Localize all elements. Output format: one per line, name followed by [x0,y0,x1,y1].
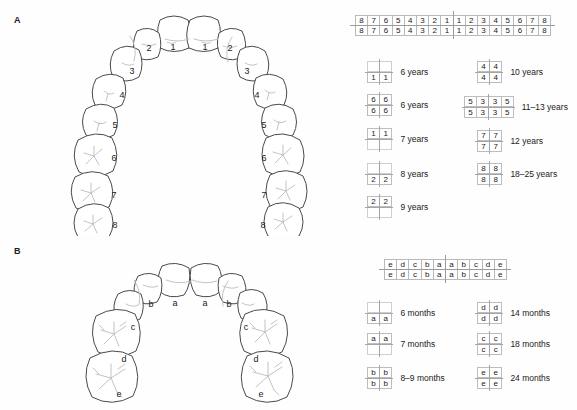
quadrant-cell [379,302,392,313]
quadrant-occlusal-line [475,313,503,314]
eruption-quadrant-grid: 53355335 [464,96,513,118]
quadrant-occlusal-line [475,344,503,345]
quadrant-cell: d [489,302,502,313]
arch-label-right-7: 7 [261,190,266,200]
quadrant-occlusal-line [475,174,503,175]
arch-label-left-d: d [121,354,126,364]
quadrant-cell: a [379,313,392,324]
arch-label-right-a: a [202,298,207,308]
eruption-quadrant-grid: 6666 [367,94,391,116]
quadrant-occlusal-line [365,378,393,379]
quadrant-occlusal-line [365,207,393,208]
quadrant-cell: 4 [489,72,502,83]
eruption-quadrant-grid: cccc [477,333,501,355]
quadrant-cell [379,139,392,150]
quadrant-cell: b [379,378,392,389]
eruption-age-label: 6 months [400,308,435,318]
quadrant-cell: 5 [501,107,514,118]
formula-occlusal-line [379,269,511,270]
arch-label-right-1: 1 [202,42,207,52]
quadrant-occlusal-line [475,141,503,142]
quadrant-occlusal-line [365,105,393,106]
eruption-quadrant-grid: eeee [477,367,501,389]
eruption-quadrant-grid: 8888 [477,163,501,185]
quadrant-occlusal-line [475,72,503,73]
quadrant-cell: b [379,367,392,378]
eruption-age-label: 6 years [400,67,428,77]
quadrant-cell: 1 [379,128,392,139]
formula-cell: 8 [538,25,551,36]
primary-dental-formula: edcbaabcde edcbaabcde [384,259,506,279]
quadrant-cell: 8 [489,174,502,185]
formula-cell: e [494,269,507,280]
arch-label-right-d: d [253,354,258,364]
quadrant-occlusal-line [365,72,393,73]
quadrant-cell: 1 [379,72,392,83]
primary-second-molar-left [86,351,138,402]
arch-label-right-b: b [226,299,231,309]
quadrant-cell: c [489,333,502,344]
eruption-age-label: 7 years [400,134,428,144]
arch-label-left-4: 4 [119,90,124,100]
arch-label-left-b: b [148,299,153,309]
quadrant-cell: 6 [379,94,392,105]
quadrant-cell: 6 [379,105,392,116]
formula-occlusal-line [350,25,555,26]
eruption-age-label: 9 years [400,202,428,212]
eruption-age-label: 18 months [510,339,550,349]
eruption-legend-item: bbbb8–9 months [367,367,445,389]
primary-dental-arch-diagram: a a b b c c d d e e [34,258,334,408]
eruption-legend-item: 228 years [367,163,428,185]
quadrant-cell: 2 [379,196,392,207]
eruption-age-label: 11–13 years [522,102,568,112]
arch-label-left-6: 6 [111,153,116,163]
primary-central-incisor-right [190,263,222,296]
eruption-legend-item: 777712 years [477,130,543,152]
panel-b-label: B [14,246,21,256]
quadrant-cell [379,207,392,218]
tooth-third-molar-left [74,204,113,236]
quadrant-cell [379,61,392,72]
eruption-age-label: 24 months [510,373,550,383]
arch-label-left-8: 8 [112,220,117,230]
primary-central-incisor-left [158,263,190,296]
panel-a-label: A [14,15,21,25]
arch-label-right-6: 6 [261,153,266,163]
eruption-quadrant-grid: dddd [477,302,501,324]
eruption-quadrant-grid: 4444 [477,61,501,83]
permanent-dental-arch-diagram: 1 1 2 2 3 3 4 4 5 5 6 6 7 7 8 8 [34,6,334,236]
arch-label-left-1: 1 [170,42,175,52]
eruption-quadrant-grid: 22 [367,196,391,218]
quadrant-cell: 2 [379,174,392,185]
eruption-legend-item: eeee24 months [477,367,550,389]
eruption-age-label: 12 years [510,136,543,146]
quadrant-occlusal-line [365,313,393,314]
eruption-legend-item: aa6 months [367,302,435,324]
eruption-quadrant-grid: aa [367,302,391,324]
arch-label-right-8: 8 [260,220,265,230]
quadrant-cell: 7 [489,130,502,141]
eruption-legend-item: aa7 months [367,333,435,355]
quadrant-occlusal-line [475,378,503,379]
eruption-age-label: 8–9 months [400,373,444,383]
quadrant-cell: a [379,333,392,344]
arch-label-right-5: 5 [261,120,266,130]
quadrant-occlusal-line [365,174,393,175]
quadrant-occlusal-line [462,107,515,108]
quadrant-cell: 8 [489,163,502,174]
eruption-quadrant-grid: 22 [367,163,391,185]
eruption-legend-item: 66666 years [367,94,428,116]
permanent-dental-formula: 8765432112345678 8765432112345678 [355,15,550,35]
eruption-quadrant-grid: bbbb [367,367,391,389]
quadrant-cell: d [489,313,502,324]
eruption-quadrant-grid: 7777 [477,130,501,152]
arch-label-left-2: 2 [146,43,151,53]
quadrant-occlusal-line [365,344,393,345]
quadrant-cell [379,344,392,355]
eruption-legend-item: 116 years [367,61,428,83]
arch-label-right-e: e [258,389,263,399]
eruption-age-label: 7 months [400,339,435,349]
arch-label-left-e: e [116,389,121,399]
quadrant-cell: 4 [489,61,502,72]
eruption-age-label: 6 years [400,100,428,110]
